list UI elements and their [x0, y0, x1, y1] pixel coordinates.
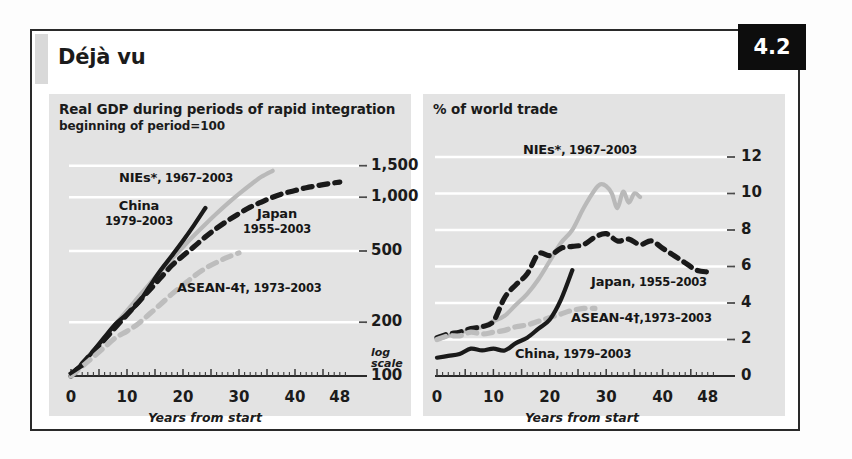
x-tick-label-right-20: 20 — [539, 388, 560, 406]
series-label-nies-right: NIEs*, 1967–2003 — [523, 142, 637, 158]
y-tick-label-right-4: 4 — [741, 293, 751, 311]
y-tick-label-left-1500: 1,500 — [371, 156, 418, 174]
x-tick-label-left-10: 10 — [117, 388, 138, 406]
x-tick-label-left-30: 30 — [229, 388, 250, 406]
series-label-asean-right: ASEAN-4†,1973–2003 — [571, 310, 712, 326]
x-tick-label-left-0: 0 — [66, 388, 76, 406]
y-tick-label-left-500: 500 — [371, 241, 402, 259]
x-tick-label-right-48: 48 — [697, 388, 718, 406]
x-tick-label-left-40: 40 — [285, 388, 306, 406]
chart-panel-real-gdp: Real GDP during periods of rapid integra… — [49, 94, 411, 416]
x-tick-label-right-40: 40 — [652, 388, 673, 406]
y-tick-label-left-1000: 1,000 — [371, 187, 418, 205]
figure-page: Déjà vu 4.2 Real GDP during periods of r… — [0, 0, 852, 459]
y-tick-label-right-12: 12 — [741, 147, 762, 165]
series-label-china-left: China1979–2003 — [105, 198, 173, 229]
figure-card: Déjà vu 4.2 Real GDP during periods of r… — [30, 29, 800, 431]
y-tick-label-right-6: 6 — [741, 256, 751, 274]
y-axis-scale-note: logscale — [371, 347, 403, 369]
x-tick-label-left-20: 20 — [173, 388, 194, 406]
page-title: Déjà vu — [58, 45, 146, 69]
x-tick-label-right-30: 30 — [596, 388, 617, 406]
series-label-asean-left: ASEAN-4†, 1973–2003 — [177, 280, 322, 296]
x-axis-label-left: Years from start — [148, 410, 262, 425]
y-tick-label-right-0: 0 — [741, 366, 751, 384]
y-tick-label-right-10: 10 — [741, 183, 762, 201]
plot-area-left — [49, 94, 411, 416]
series-line-4 — [71, 253, 239, 376]
y-tick-label-right-2: 2 — [741, 329, 751, 347]
title-accent-bar — [35, 34, 48, 84]
series-label-china-right: China, 1979–2003 — [515, 346, 631, 362]
series-label-nies-left: NIEs*, 1967–2003 — [119, 170, 233, 186]
x-tick-label-right-10: 10 — [483, 388, 504, 406]
x-axis-label-right: Years from start — [525, 410, 639, 425]
series-label-japan-right: Japan, 1955–2003 — [591, 274, 707, 290]
series-label-japan-left: Japan1955–2003 — [243, 206, 311, 237]
y-tick-label-right-8: 8 — [741, 220, 751, 238]
figure-number-badge: 4.2 — [738, 24, 806, 70]
x-tick-label-left-48: 48 — [329, 388, 350, 406]
chart-panels: Real GDP during periods of rapid integra… — [49, 94, 785, 419]
x-tick-label-right-0: 0 — [432, 388, 442, 406]
y-tick-label-left-200: 200 — [371, 312, 402, 330]
chart-panel-world-trade: % of world trade 02468101201020304048Yea… — [423, 94, 785, 416]
